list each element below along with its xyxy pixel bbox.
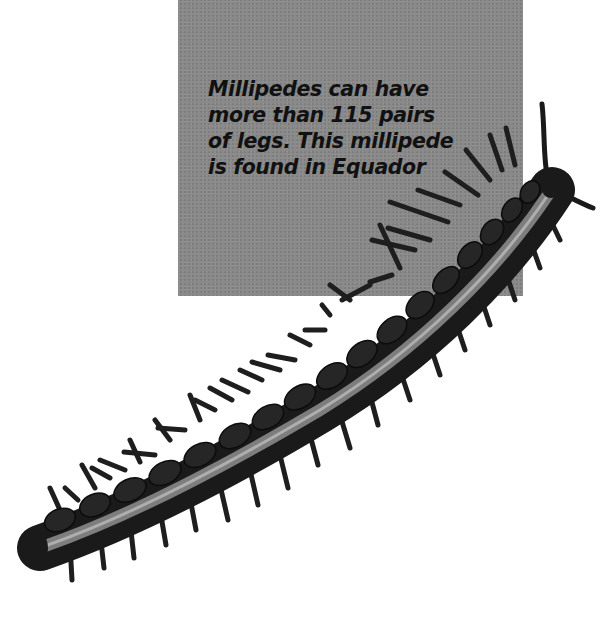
body-segments — [41, 177, 544, 536]
millipede-head — [20, 530, 48, 566]
millipede-photo — [0, 0, 610, 634]
